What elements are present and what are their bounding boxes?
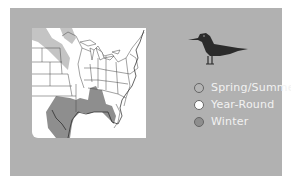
legend-item-spring-summer: Spring/Summer bbox=[194, 79, 291, 96]
spring-summer-swatch-icon bbox=[194, 83, 204, 93]
winter-swatch-icon bbox=[194, 117, 204, 127]
legend-item-year-round: Year-Round bbox=[194, 96, 291, 113]
legend-label: Winter bbox=[211, 115, 248, 128]
legend-label: Year-Round bbox=[211, 98, 274, 111]
legend-label: Spring/Summer bbox=[211, 81, 291, 94]
bird-silhouette-icon bbox=[186, 28, 250, 68]
year-round-swatch-icon bbox=[194, 100, 204, 110]
range-map-card: Spring/Summer Year-Round Winter bbox=[10, 8, 282, 176]
us-map-outline bbox=[32, 28, 146, 138]
range-legend: Spring/Summer Year-Round Winter bbox=[194, 79, 291, 130]
legend-item-winter: Winter bbox=[194, 113, 291, 130]
range-map bbox=[32, 28, 146, 138]
